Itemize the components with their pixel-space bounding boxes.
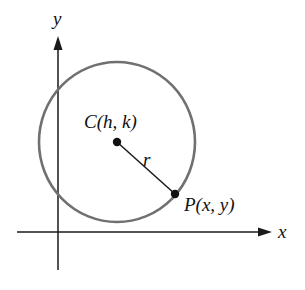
y-axis-arrow-icon bbox=[54, 36, 63, 50]
y-axis bbox=[54, 36, 63, 270]
x-axis-label: x bbox=[277, 221, 287, 242]
x-axis-arrow-icon bbox=[258, 228, 272, 237]
y-axis-label: y bbox=[51, 8, 62, 29]
x-axis bbox=[17, 228, 272, 237]
center-point bbox=[113, 138, 121, 146]
point-p bbox=[171, 190, 179, 198]
radius-label: r bbox=[143, 149, 151, 170]
center-label: C(h, k) bbox=[84, 111, 137, 133]
point-label: P(x, y) bbox=[183, 194, 235, 216]
circle-diagram: x y C(h, k) r P(x, y) bbox=[0, 0, 305, 290]
